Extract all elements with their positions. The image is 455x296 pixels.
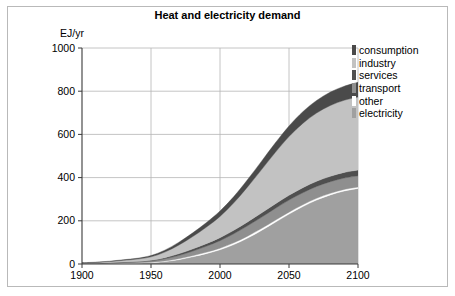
x-tick-label: 1950: [139, 269, 163, 281]
legend-swatch-icon: [352, 70, 356, 80]
y-axis-ticks: 02004006008001000: [52, 42, 82, 270]
legend-item-transport[interactable]: transport: [352, 82, 452, 95]
y-tick-label: 0: [69, 258, 75, 270]
chart-figure: Heat and electricity demand EJ/yr 020040…: [0, 0, 455, 296]
legend-item-label: consumption: [359, 44, 419, 56]
y-tick-label: 600: [57, 128, 75, 140]
x-axis-ticks: 19001950200020502100: [70, 264, 370, 281]
legend-swatch-icon: [352, 58, 356, 68]
legend-item-other[interactable]: other: [352, 94, 452, 107]
y-tick-label: 1000: [52, 42, 76, 54]
x-tick-label: 2050: [277, 269, 301, 281]
legend-item-electricity[interactable]: electricity: [352, 107, 452, 120]
y-tick-label: 200: [57, 214, 75, 226]
legend-item-industry[interactable]: industry: [352, 57, 452, 70]
x-tick-label: 2000: [208, 269, 232, 281]
legend-item-label: industry: [359, 57, 396, 69]
legend: consumptionindustryservicestransportothe…: [352, 44, 452, 120]
legend-item-services[interactable]: services: [352, 69, 452, 82]
legend-swatch-icon: [352, 108, 356, 118]
legend-swatch-icon: [352, 83, 356, 93]
legend-swatch-icon: [352, 96, 356, 106]
x-tick-label: 1900: [70, 269, 94, 281]
legend-item-label: transport: [359, 82, 400, 94]
x-tick-label: 2100: [346, 269, 370, 281]
y-tick-label: 800: [57, 85, 75, 97]
legend-item-label: electricity: [359, 107, 403, 119]
legend-item-consumption[interactable]: consumption: [352, 44, 452, 57]
legend-item-label: other: [359, 95, 383, 107]
legend-item-label: services: [359, 69, 398, 81]
legend-swatch-icon: [352, 45, 356, 55]
y-tick-label: 400: [57, 171, 75, 183]
